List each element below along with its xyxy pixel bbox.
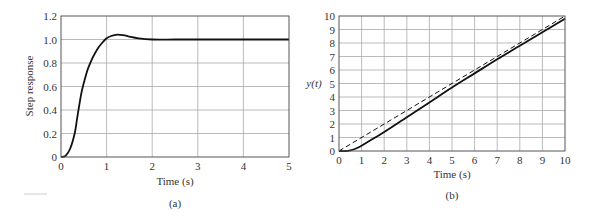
y-tick-label: 9 — [330, 24, 336, 36]
x-tick-label: 6 — [472, 154, 478, 166]
x-tick-label: 5 — [286, 160, 292, 172]
chart-a-caption: (a) — [169, 197, 182, 210]
y-tick-label: 6 — [330, 64, 336, 76]
y-tick-label: 0.2 — [43, 128, 57, 140]
y-tick-label: 0 — [52, 151, 58, 163]
y-tick-label: 1 — [330, 132, 336, 144]
chart-a-grid — [61, 16, 289, 157]
x-tick-label: 10 — [560, 154, 572, 166]
x-tick-label: 4 — [427, 154, 433, 166]
y-tick-label: 0.8 — [43, 57, 57, 69]
chart-b-xlabel: Time (s) — [433, 168, 471, 181]
x-tick-label: 3 — [404, 154, 410, 166]
x-tick-label: 9 — [540, 154, 546, 166]
chart-a-xlabel: Time (s) — [156, 175, 194, 188]
chart-b: 012345678910012345678910 Time (s) y(t) (… — [305, 10, 571, 202]
y-tick-label: 0.4 — [43, 104, 57, 116]
chart-b-ticks: 012345678910012345678910 — [324, 10, 571, 166]
x-tick-label: 7 — [494, 154, 500, 166]
y-tick-label: 7 — [330, 51, 336, 63]
y-tick-label: 8 — [330, 37, 336, 49]
y-tick-label: 3 — [330, 105, 336, 117]
x-tick-label: 1 — [104, 160, 110, 172]
chart-a-series — [61, 35, 289, 157]
x-tick-label: 1 — [359, 154, 365, 166]
response-curve — [61, 35, 289, 157]
x-tick-label: 2 — [381, 154, 387, 166]
x-tick-label: 5 — [449, 154, 455, 166]
x-tick-label: 2 — [149, 160, 155, 172]
y-tick-label: 5 — [330, 78, 336, 90]
y-tick-label: 0 — [330, 145, 336, 157]
chart-a-ylabel: Step response — [23, 55, 35, 116]
chart-b-caption: (b) — [446, 189, 459, 202]
x-tick-label: 0 — [58, 160, 64, 172]
x-tick-label: 0 — [336, 154, 342, 166]
y-tick-label: 10 — [324, 10, 336, 22]
x-tick-label: 8 — [517, 154, 523, 166]
y-tick-label: 4 — [330, 91, 336, 103]
y-tick-label: 2 — [330, 118, 336, 130]
x-tick-label: 3 — [195, 160, 201, 172]
y-tick-label: 1.0 — [43, 34, 57, 46]
chart-a-ticks: 01234500.20.40.60.81.01.2 — [43, 10, 292, 172]
y-tick-label: 0.6 — [43, 81, 57, 93]
chart-a: 01234500.20.40.60.81.01.2 Time (s) Step … — [23, 10, 292, 210]
x-tick-label: 4 — [241, 160, 247, 172]
figure: 01234500.20.40.60.81.01.2 Time (s) Step … — [0, 0, 595, 220]
y-tick-label: 1.2 — [43, 10, 57, 22]
chart-b-ylabel: y(t) — [305, 77, 322, 90]
